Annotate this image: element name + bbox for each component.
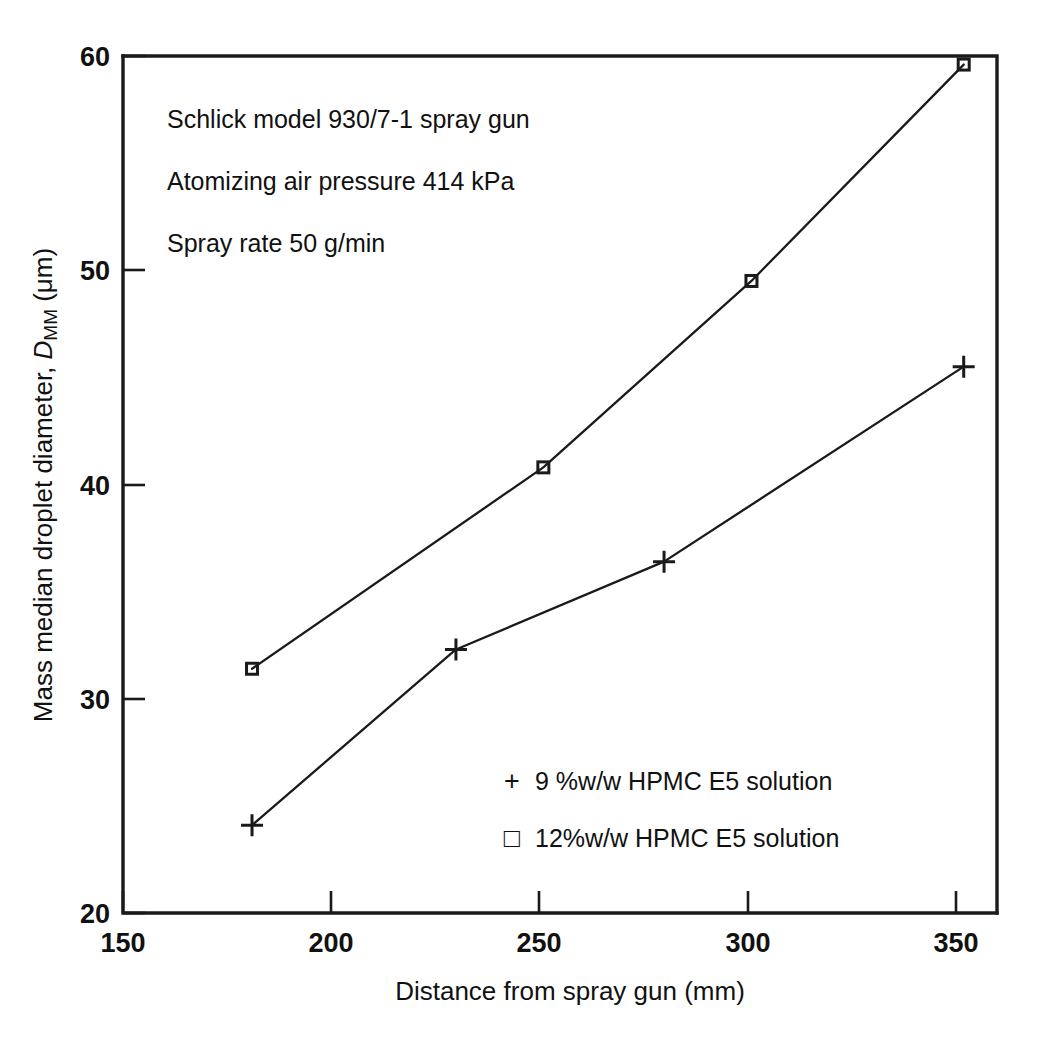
x-tick-label-250: 250 [516, 928, 561, 958]
x-tick-label-200: 200 [308, 928, 353, 958]
y-axis-title-subscript: MM [40, 309, 61, 341]
y-tick-label-40: 40 [80, 471, 110, 501]
data-point-marker-plus [953, 356, 975, 378]
legend-label-9pct: 9 %w/w HPMC E5 solution [535, 767, 832, 795]
y-axis-title-prefix: Mass median droplet diameter, [28, 359, 58, 722]
figure-container: 20 30 40 50 60 150 200 250 300 350 Dista… [0, 0, 1047, 1037]
x-tick-label-150: 150 [100, 928, 145, 958]
chart-canvas: 20 30 40 50 60 150 200 250 300 350 Dista… [0, 0, 1047, 1037]
legend-label-12pct: 12%w/w HPMC E5 solution [535, 824, 839, 852]
series-12pct-markers [247, 59, 970, 674]
y-axis-title-suffix: (μm) [28, 248, 58, 309]
x-tick-labels: 150 200 250 300 350 [100, 928, 978, 958]
data-point-marker-plus [653, 551, 675, 573]
series-12pct [247, 59, 970, 674]
legend-glyph-plus-icon: + [504, 766, 520, 796]
y-tick-marks [123, 56, 145, 913]
y-tick-label-50: 50 [80, 256, 110, 286]
x-tick-label-300: 300 [725, 928, 770, 958]
y-tick-label-60: 60 [80, 42, 110, 72]
y-tick-labels: 20 30 40 50 60 [80, 42, 110, 929]
annotation-block: Schlick model 930/7-1 spray gun Atomizin… [167, 105, 530, 257]
y-axis-title-symbol: D [28, 341, 58, 360]
annotation-line-3: Spray rate 50 g/min [167, 229, 385, 257]
series-12pct-line [252, 65, 964, 669]
y-tick-label-30: 30 [80, 685, 110, 715]
y-axis-title: Mass median droplet diameter, DMM (μm) [28, 248, 61, 722]
series-9pct-markers [241, 356, 975, 836]
series-9pct [241, 356, 975, 836]
chart-legend: + 9 %w/w HPMC E5 solution □ 12%w/w HPMC … [504, 766, 839, 853]
x-axis-title: Distance from spray gun (mm) [395, 976, 745, 1006]
annotation-line-1: Schlick model 930/7-1 spray gun [167, 105, 530, 133]
x-tick-marks [123, 891, 956, 913]
y-tick-label-20: 20 [80, 899, 110, 929]
legend-glyph-square-icon: □ [504, 823, 521, 853]
x-tick-label-350: 350 [933, 928, 978, 958]
annotation-line-2: Atomizing air pressure 414 kPa [167, 167, 514, 195]
